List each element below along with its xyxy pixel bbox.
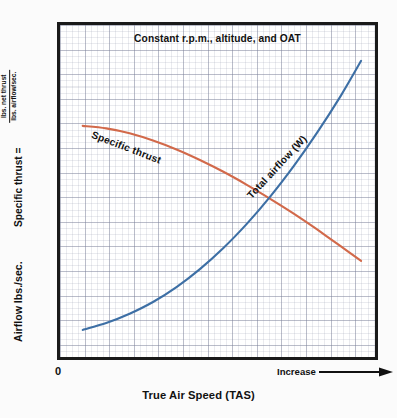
y-axis-fraction-denominator: lbs. airflow/sec. (10, 70, 18, 123)
y-axis-fraction-numerator: lbs. net thrust (1, 73, 9, 121)
chart-title: Constant r.p.m., altitude, and OAT (60, 33, 375, 44)
curves-svg (60, 25, 375, 357)
x-axis-increase-group: Increase (277, 366, 393, 377)
arrow-right-icon (319, 367, 393, 377)
x-axis-title: True Air Speed (TAS) (0, 389, 397, 401)
y-axis-fraction: lbs. net thrust lbs. airflow/sec. (1, 70, 18, 123)
curve-total-airflow (83, 61, 361, 330)
x-axis-zero-label: 0 (55, 365, 61, 377)
y-axis-specific-thrust-label: Specific thrust = (13, 147, 24, 227)
x-axis-increase-label: Increase (277, 366, 316, 377)
y-axis-labels: Airflow lbs./sec. Specific thrust = lbs.… (0, 0, 57, 360)
chart-figure: Constant r.p.m., altitude, and OAT Speci… (0, 0, 397, 418)
y-axis-airflow-label: Airflow lbs./sec. (12, 261, 24, 342)
plot-area: Constant r.p.m., altitude, and OAT Speci… (57, 22, 378, 360)
